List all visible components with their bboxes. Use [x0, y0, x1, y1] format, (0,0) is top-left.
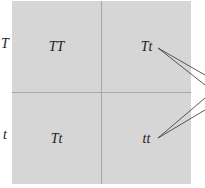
- pointer-lines: [0, 0, 205, 188]
